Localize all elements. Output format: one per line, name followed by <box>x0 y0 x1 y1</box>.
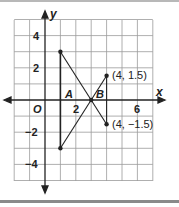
y-tick-2: 2 <box>33 63 39 74</box>
x-axis-left-arrow-icon <box>4 97 11 103</box>
origin-label: O <box>33 104 42 115</box>
bottom-border <box>0 200 179 203</box>
y-tick-neg4: −4 <box>25 159 38 170</box>
region-label-b: B <box>96 89 104 100</box>
x-axis-label: x <box>156 86 163 98</box>
point-label-4-1.5: (4, 1.5) <box>112 70 147 81</box>
x-tick-2: 2 <box>73 104 79 115</box>
y-tick-neg2: −2 <box>25 127 38 138</box>
point-label-4-neg1.5: (4, −1.5) <box>112 119 153 130</box>
y-axis-down-arrow-icon <box>42 186 48 193</box>
y-axis-label: y <box>50 8 57 20</box>
y-axis-up-arrow-icon <box>42 11 48 18</box>
region-label-a: A <box>65 89 73 100</box>
coordinate-plane <box>0 0 179 207</box>
y-tick-4: 4 <box>33 31 39 42</box>
x-tick-6: 6 <box>134 104 140 115</box>
